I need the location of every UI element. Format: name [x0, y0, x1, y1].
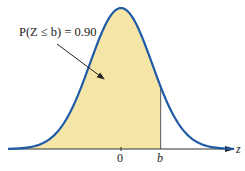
probability-annotation: P(Z ≤ b) = 0.90: [19, 25, 96, 40]
axis-label-z: z: [236, 142, 241, 157]
tick-label-b: b: [157, 151, 163, 166]
tick-label-zero: 0: [117, 151, 123, 166]
